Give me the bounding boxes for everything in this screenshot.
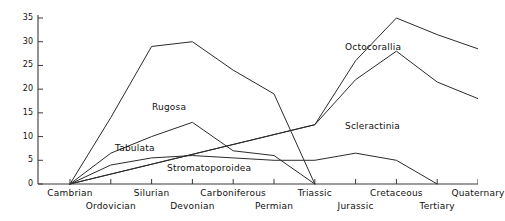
series-line-octocorallia bbox=[70, 18, 478, 184]
x-axis-label-triassic: Triassic bbox=[298, 188, 332, 198]
x-axis-label-cretaceous: Cretaceous bbox=[370, 188, 423, 198]
y-axis-tick-label: 35 bbox=[11, 13, 33, 22]
y-axis-tick-label: 0 bbox=[11, 179, 33, 188]
series-annotation-rugosa: Rugosa bbox=[152, 102, 186, 112]
series-annotation-tabulata: Tabulata bbox=[115, 143, 155, 153]
y-axis-tick-label: 25 bbox=[11, 60, 33, 69]
x-axis-label-cambrian: Cambrian bbox=[47, 188, 92, 198]
y-axis-tick-label: 20 bbox=[11, 84, 33, 93]
x-axis-label-carboniferous: Carboniferous bbox=[200, 188, 266, 198]
y-axis-tick-label: 30 bbox=[11, 37, 33, 46]
x-axis-label-silurian: Silurian bbox=[134, 188, 169, 198]
series-line-stromatoporoidea bbox=[70, 153, 437, 184]
series-line-scleractinia bbox=[70, 51, 478, 184]
y-axis-tick-label: 10 bbox=[11, 132, 33, 141]
x-axis-label-tertiary: Tertiary bbox=[419, 201, 454, 211]
series-annotation-stromatoporoidea: Stromatoporoidea bbox=[167, 163, 251, 173]
series-annotation-octocorallia: Octocorallia bbox=[345, 42, 401, 52]
x-axis-label-quaternary: Quaternary bbox=[451, 188, 504, 198]
x-axis-label-ordovician: Ordovician bbox=[86, 201, 136, 211]
x-axis-label-devonian: Devonian bbox=[170, 201, 214, 211]
y-axis-tick-label: 5 bbox=[11, 155, 33, 164]
x-axis-label-jurassic: Jurassic bbox=[338, 201, 374, 211]
x-axis-label-permian: Permian bbox=[255, 201, 293, 211]
y-axis-tick-label: 15 bbox=[11, 108, 33, 117]
series-annotation-scleractinia: Scleractinia bbox=[345, 121, 400, 131]
